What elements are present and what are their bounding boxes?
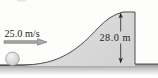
height-label: 28.0 m — [100, 32, 131, 43]
scan-artifact — [17, 0, 26, 1]
velocity-arrow-icon — [4, 39, 47, 46]
diagram-canvas: 25.0 m/s 28.0 m — [0, 0, 158, 78]
ball — [6, 52, 20, 66]
velocity-label: 25.0 m/s — [5, 28, 40, 39]
physics-hill-diagram: 25.0 m/s 28.0 m — [0, 0, 158, 78]
